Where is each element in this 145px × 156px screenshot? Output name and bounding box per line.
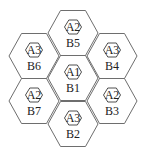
inner-label: A2 — [105, 88, 120, 102]
inner-label: A2 — [66, 20, 81, 34]
inner-label: A3 — [66, 111, 81, 125]
inner-label: A2 — [27, 88, 42, 102]
cell-label: B6 — [27, 59, 41, 73]
cell-label: B7 — [27, 104, 41, 118]
hex-cell-diagram: A2B5A3B6A3B4A1B1A2B7A2B3A3B2 — [0, 0, 145, 156]
inner-label: A3 — [105, 43, 120, 57]
cell-label: B3 — [105, 104, 119, 118]
inner-label: A1 — [66, 65, 81, 79]
cell-label: B2 — [66, 127, 80, 141]
inner-label: A3 — [27, 43, 42, 57]
cell-label: B5 — [66, 36, 80, 50]
cell-label: B1 — [66, 81, 80, 95]
cell-label: B4 — [105, 59, 119, 73]
